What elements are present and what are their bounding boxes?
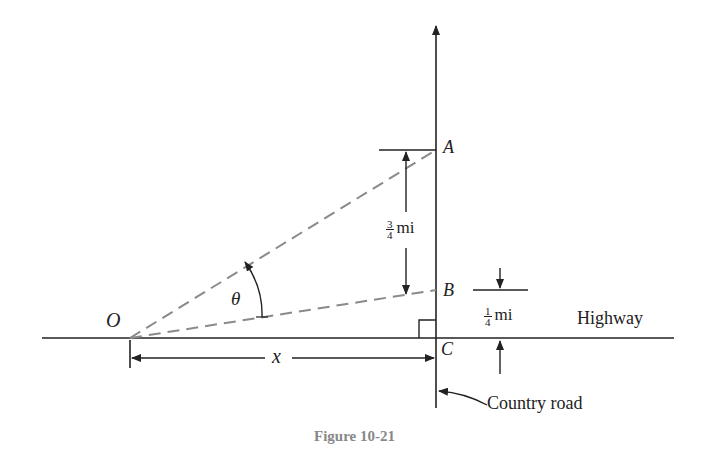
fraction-three-quarters: 3 4 xyxy=(386,219,394,240)
dimension-label-AB: 3 4 mi xyxy=(386,218,414,240)
sight-line-OA xyxy=(130,150,436,338)
fraction-numerator: 1 xyxy=(484,306,492,317)
sight-line-OB xyxy=(130,290,436,338)
right-angle-marker xyxy=(419,320,436,338)
unit-label: mi xyxy=(397,218,415,237)
point-label-C: C xyxy=(441,339,453,360)
diagram-canvas xyxy=(0,0,709,460)
highway-label: Highway xyxy=(577,308,643,329)
figure-caption: Figure 10-21 xyxy=(0,428,709,445)
point-label-O: O xyxy=(106,309,120,332)
dimension-label-BC: 1 4 mi xyxy=(484,305,512,327)
angle-label-theta: θ xyxy=(231,288,240,310)
distance-label-x: x xyxy=(272,345,281,368)
country-road-pointer xyxy=(439,391,487,405)
point-label-A: A xyxy=(443,137,454,158)
fraction-denominator: 4 xyxy=(386,230,394,240)
point-label-B: B xyxy=(443,280,454,301)
country-road-label: Country road xyxy=(487,393,582,414)
unit-label: mi xyxy=(495,305,513,324)
fraction-numerator: 3 xyxy=(386,219,394,230)
fraction-one-quarter: 1 4 xyxy=(484,306,492,327)
fraction-denominator: 4 xyxy=(484,317,492,327)
theta-arc xyxy=(245,262,262,317)
